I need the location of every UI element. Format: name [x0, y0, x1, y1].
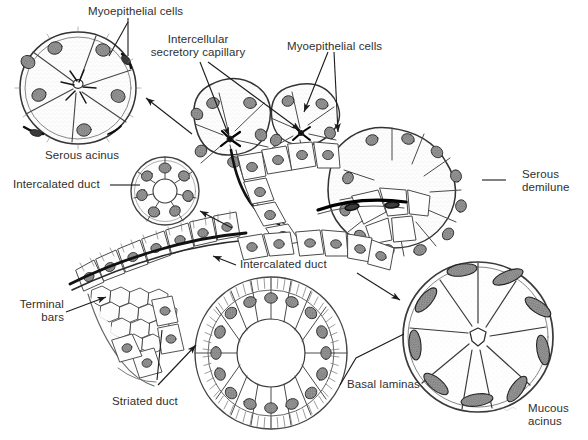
label-serous-acinus: Serous acinus	[45, 149, 119, 162]
label-mucous-acinus-line2: acinus	[528, 415, 562, 428]
label-intercalated-duct-left: Intercalated duct	[13, 178, 100, 191]
intercalated-duct-inset	[131, 157, 199, 225]
label-serous-demilune-line1: Serous	[522, 168, 559, 181]
label-myoepithelial-cells-right: Myoepithelial cells	[287, 40, 382, 53]
label-serous-demilune-line2: demilune	[522, 181, 569, 194]
label-striated-duct: Striated duct	[112, 395, 178, 408]
serous-acinus-inset	[15, 27, 141, 149]
striated-duct-inset	[195, 277, 347, 429]
figure-artwork	[0, 0, 588, 440]
label-intercellular-secretory-capillary-line2: secretory capillary	[130, 46, 266, 59]
label-myoepithelial-cells-left: Myoepithelial cells	[88, 5, 183, 18]
label-terminal-bars-line2: bars	[0, 311, 64, 324]
histology-figure: Myoepithelial cells Intercellular secret…	[0, 0, 588, 440]
label-intercalated-duct-center: Intercalated duct	[240, 258, 327, 271]
label-mucous-acinus-line1: Mucous	[528, 402, 569, 415]
label-intercellular-secretory-capillary-line1: Intercellular	[136, 33, 260, 46]
label-basal-laminas: Basal laminas	[347, 378, 420, 391]
mucous-acinus-inset	[403, 262, 554, 412]
label-terminal-bars-line1: Terminal	[0, 298, 64, 311]
